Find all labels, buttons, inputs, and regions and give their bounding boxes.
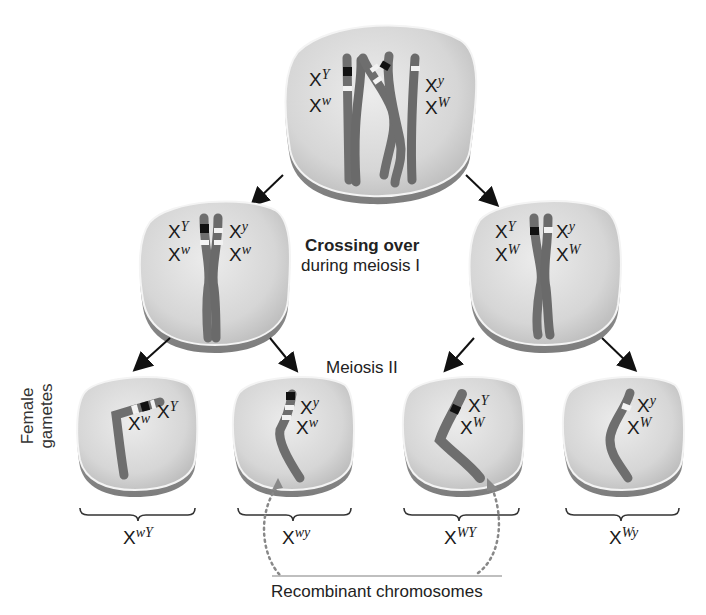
crossing-over-subtitle: during meiosis I <box>301 256 420 276</box>
gamete-4-allele-2: XW <box>627 418 651 437</box>
gamete-cell-4 <box>563 377 684 497</box>
gamete-1-allele-1: Xw <box>128 414 150 433</box>
female-gametes-label: Female gametes <box>18 356 56 476</box>
gamete-4-allele-1: Xy <box>637 396 656 415</box>
meiosis-ii-label: Meiosis II <box>326 358 398 378</box>
crossing-over-title: Crossing over <box>305 236 419 256</box>
arrow-icon <box>450 338 474 365</box>
meiosis-i-cell-left <box>140 201 290 353</box>
mi-left-allele-right-1: Xy <box>229 222 248 241</box>
meiosis-diagram <box>0 0 706 615</box>
gamete-2-allele-2: Xw <box>296 418 318 437</box>
gamete-1-genotype: XwY <box>123 528 153 547</box>
parent-allele-right-1: Xy <box>425 76 444 95</box>
mi-left-allele-left-2: Xw <box>168 245 190 264</box>
mi-right-allele-left-1: XY <box>495 222 515 241</box>
parent-allele-left-1: XY <box>309 70 329 89</box>
parent-allele-left-2: Xw <box>309 96 331 115</box>
mi-right-allele-right-1: Xy <box>556 222 575 241</box>
recombinant-chromosomes-label: Recombinant chromosomes <box>271 582 483 602</box>
arrow-icon <box>270 338 292 365</box>
mi-left-allele-right-2: Xw <box>229 245 251 264</box>
arrow-icon <box>602 338 630 365</box>
arrow-icon <box>257 175 283 200</box>
mi-right-allele-right-2: XW <box>556 245 580 264</box>
meiosis-i-cell-right <box>470 201 621 353</box>
arrow-icon <box>140 338 170 365</box>
gamete-1-allele-2: XY <box>157 402 177 421</box>
gamete-3-allele-2: XW <box>460 418 484 437</box>
gamete-cell-1 <box>77 377 197 497</box>
gamete-braces <box>80 508 679 521</box>
gamete-3-genotype: XWY <box>444 528 476 547</box>
mi-left-allele-left-1: XY <box>168 222 188 241</box>
parent-allele-right-2: XW <box>425 98 449 117</box>
gamete-4-genotype: XWy <box>609 528 638 547</box>
arrow-icon <box>466 175 492 200</box>
gamete-3-allele-1: XY <box>468 396 488 415</box>
gamete-2-genotype: Xwy <box>282 528 310 547</box>
gamete-cell-2 <box>233 377 354 497</box>
mi-right-allele-left-2: XW <box>495 245 519 264</box>
